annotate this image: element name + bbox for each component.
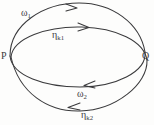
point-label-q: Q <box>142 51 149 61</box>
loop-diagram-canvas <box>0 0 154 125</box>
omega1-arrowhead-icon <box>66 4 77 11</box>
curve-label-omega2: ω2 <box>77 89 87 99</box>
loop-diagram-figure: ω1 ηk1 ω2 ηk2 P Q <box>0 0 154 125</box>
curve-label-eta-k1: ηk1 <box>52 30 64 40</box>
eta-k2-arrowhead-icon <box>68 103 80 110</box>
omega-loop-bottom-arc <box>10 52 145 87</box>
curve-label-omega1: ω1 <box>21 8 31 18</box>
curve-label-eta-k2: ηk2 <box>81 110 93 120</box>
point-label-p: P <box>1 51 7 61</box>
eta-loop-top-arc <box>11 27 147 60</box>
